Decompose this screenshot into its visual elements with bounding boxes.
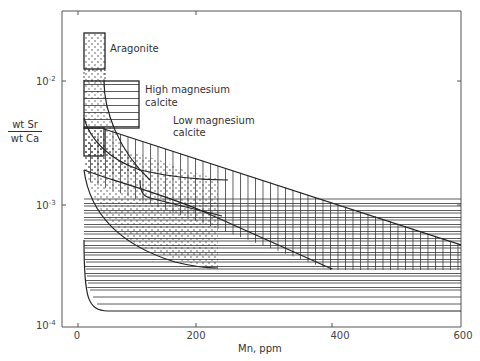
x-tick-600: 600 xyxy=(453,330,472,341)
label-low-mg-line2: calcite xyxy=(173,127,206,138)
chart-canvas xyxy=(0,0,480,361)
label-low-mg-line1: Low magnesium xyxy=(173,115,255,126)
y-axis-label: wt Sr wt Ca xyxy=(8,119,42,144)
x-tick-200: 200 xyxy=(186,330,205,341)
x-tick-400: 400 xyxy=(330,330,349,341)
y-tick-1e-4: 10-4 xyxy=(36,319,56,331)
y-tick-1e-2: 10-2 xyxy=(36,75,56,87)
x-tick-0: 0 xyxy=(74,330,80,341)
label-aragonite: Aragonite xyxy=(110,43,159,54)
aragonite-field xyxy=(84,33,105,81)
x-axis-label: Mn, ppm xyxy=(238,343,282,354)
y-tick-1e-3: 10-3 xyxy=(36,199,56,211)
label-high-mg-line2: calcite xyxy=(145,97,178,108)
y-axis-denominator: wt Ca xyxy=(8,132,42,144)
label-high-mg-line1: High magnesium xyxy=(145,84,230,95)
y-axis-numerator: wt Sr xyxy=(8,119,42,132)
